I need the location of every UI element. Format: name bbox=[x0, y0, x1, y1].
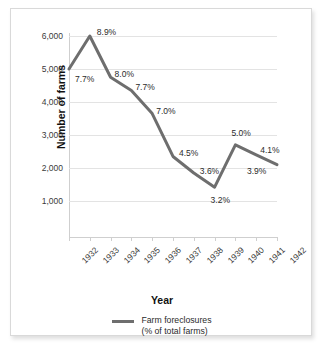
y-axis-tick-label: 6,000 bbox=[23, 31, 63, 41]
chart-card: Number of farms 6,0005,0004,0003,0002,00… bbox=[10, 8, 312, 336]
data-point-label: 3.2% bbox=[211, 195, 230, 205]
data-point-label: 7.0% bbox=[156, 106, 175, 116]
data-point-label: 7.7% bbox=[75, 74, 94, 84]
plot-area: 7.7%8.9%8.0%7.7%7.0%4.5%3.6%3.2%5.0%4.1%… bbox=[69, 36, 277, 234]
data-point-label: 3.6% bbox=[200, 166, 219, 176]
x-axis-tick bbox=[69, 237, 70, 241]
legend: Farm foreclosures (% of total farms) bbox=[11, 315, 313, 337]
y-axis-tick-label: 5,000 bbox=[23, 64, 63, 74]
x-axis-tick bbox=[194, 237, 195, 241]
y-axis-tick-label: 3,000 bbox=[23, 130, 63, 140]
x-axis-tick bbox=[173, 237, 174, 241]
legend-label-farm-foreclosures: Farm foreclosures (% of total farms) bbox=[141, 315, 211, 337]
data-point-label: 8.0% bbox=[115, 69, 134, 79]
data-point-label: 3.9% bbox=[247, 166, 266, 176]
y-axis-tick-label: 2,000 bbox=[23, 163, 63, 173]
x-axis-tick bbox=[111, 237, 112, 241]
x-axis-tick-label: 1934 bbox=[121, 245, 141, 265]
data-point-label: 8.9% bbox=[97, 27, 116, 37]
legend-label-line2: (% of total farms) bbox=[141, 326, 211, 337]
legend-label-line1: Farm foreclosures bbox=[141, 315, 211, 326]
x-axis-tick bbox=[215, 237, 216, 241]
data-point-label: 7.7% bbox=[135, 82, 154, 92]
x-axis-tick-label: 1938 bbox=[204, 245, 224, 265]
x-axis-tick-label: 1941 bbox=[267, 245, 287, 265]
x-axis-tick-label: 1939 bbox=[225, 245, 245, 265]
legend-swatch-farm-foreclosures bbox=[112, 320, 134, 323]
x-axis-tick-label: 1937 bbox=[184, 245, 204, 265]
x-axis-title: Year bbox=[11, 294, 313, 306]
y-axis-tick-label: 4,000 bbox=[23, 97, 63, 107]
data-point-label: 5.0% bbox=[231, 128, 250, 138]
x-axis-tick bbox=[152, 237, 153, 241]
x-axis-tick bbox=[235, 237, 236, 241]
x-axis-tick bbox=[90, 237, 91, 241]
x-axis-tick-label: 1933 bbox=[100, 245, 120, 265]
x-axis-tick-label: 1932 bbox=[80, 245, 100, 265]
x-axis-tick-label: 1935 bbox=[142, 245, 162, 265]
x-axis-tick-label: 1942 bbox=[288, 245, 308, 265]
x-axis-tick bbox=[277, 237, 278, 241]
data-point-label: 4.5% bbox=[179, 148, 198, 158]
x-axis-tick bbox=[131, 237, 132, 241]
x-axis-tick-label: 1936 bbox=[163, 245, 183, 265]
x-axis-tick-label: 1940 bbox=[246, 245, 266, 265]
y-axis-tick-label: 1,000 bbox=[23, 196, 63, 206]
data-point-label: 4.1% bbox=[260, 145, 279, 155]
x-axis-tick bbox=[256, 237, 257, 241]
